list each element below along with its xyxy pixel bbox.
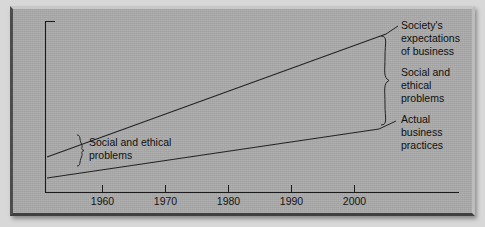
- top-right-label-line3: of business: [401, 45, 454, 57]
- x-tick-label-1960: 1960: [91, 195, 115, 207]
- inner-label-line1: Social and ethical: [89, 136, 171, 148]
- bottom-right-label-line3: practices: [401, 139, 443, 151]
- leader-line-societal-expectations: [386, 26, 398, 34]
- x-tick-label-1970: 1970: [154, 195, 178, 207]
- label-social-ethical-problems: Social and ethical problems: [401, 66, 450, 104]
- inner-label-line2: problems: [89, 149, 132, 161]
- x-axis-tick-labels: 1960 1970 1980 1990 2000: [91, 195, 367, 207]
- photo-frame: 1960 1970 1980 1990 2000 Social and ethi…: [10, 6, 475, 216]
- leader-lines-group: [379, 26, 398, 129]
- top-right-label-line1: Society's: [401, 19, 443, 31]
- mid-right-label-line1: Social and: [401, 66, 450, 78]
- x-tick-label-1980: 1980: [217, 195, 241, 207]
- x-tick-label-1990: 1990: [280, 195, 304, 207]
- label-actual-business-practices: Actual business practices: [401, 113, 443, 151]
- bottom-right-label-line2: business: [401, 126, 442, 138]
- chart-canvas: 1960 1970 1980 1990 2000 Social and ethi…: [13, 9, 472, 213]
- annotation-brace-left: [77, 135, 84, 166]
- mid-right-label-line3: problems: [401, 92, 444, 104]
- bottom-right-label-line1: Actual: [401, 113, 430, 125]
- annotation-label-left: Social and ethical problems: [89, 136, 171, 161]
- axes-group: [45, 21, 459, 193]
- x-tick-label-2000: 2000: [343, 195, 367, 207]
- figure-root: 1960 1970 1980 1990 2000 Social and ethi…: [0, 0, 485, 227]
- label-societal-expectations: Society's expectations of business: [401, 19, 460, 57]
- annotation-brace-right: [381, 36, 389, 125]
- top-right-label-line2: expectations: [401, 32, 460, 44]
- mid-right-label-line2: ethical: [401, 79, 431, 91]
- x-axis-ticks: [103, 185, 355, 192]
